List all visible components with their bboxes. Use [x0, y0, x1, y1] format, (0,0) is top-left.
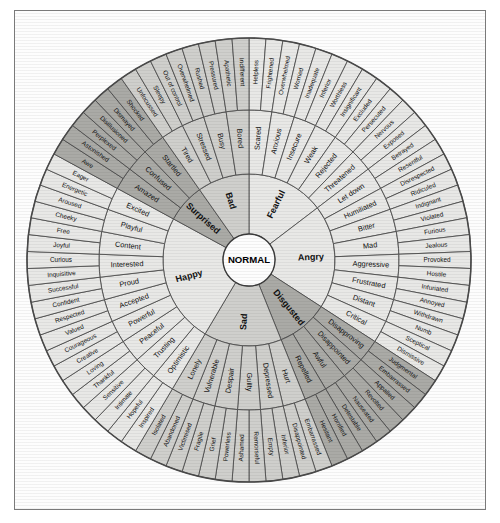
outer-label-remorseful: Remorseful	[253, 431, 261, 464]
middle-label-mad: Mad	[362, 240, 377, 251]
sector-label-sad: Sad	[238, 313, 249, 330]
middle-label-interested: Interested	[110, 259, 143, 269]
sector-label-angry: Angry	[298, 252, 324, 263]
outer-label-ashamed: Ashamed	[237, 434, 245, 462]
feelings-wheel-diagram: FearfulScaredHelplessFrightenedAnxiousOv…	[15, 11, 485, 509]
middle-label-guilty: Guilty	[245, 373, 254, 392]
outer-label-indifferent: Indifferent	[239, 58, 247, 87]
outer-label-provoked: Provoked	[424, 256, 451, 263]
feelings-wheel-frame: FearfulScaredHelplessFrightenedAnxiousOv…	[14, 10, 486, 510]
center-label: NORMAL	[228, 254, 270, 265]
middle-label-bored: Bored	[235, 128, 245, 148]
middle-label-aggressive: Aggressive	[352, 259, 389, 269]
outer-label-curious: Curious	[50, 256, 72, 263]
middle-label-scared: Scared	[252, 126, 263, 150]
